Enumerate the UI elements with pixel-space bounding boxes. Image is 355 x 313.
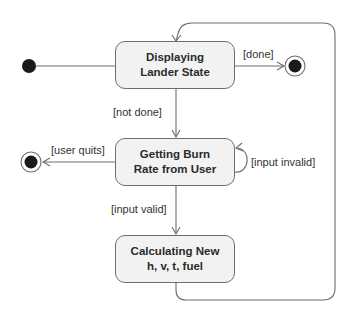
transition-input-invalid [235,148,247,172]
guard-input-valid: [input valid] [111,203,167,215]
guard-user-quits: [user quits] [51,144,105,156]
state-label-line2: Rate from User [134,162,216,177]
guard-done: [done] [243,48,274,60]
state-label-line1: Displaying [146,50,204,65]
guard-input-invalid: [input invalid] [251,156,315,168]
state-label-line2: h, v, t, fuel [147,259,203,274]
state-calculating-new: Calculating New h, v, t, fuel [115,235,235,283]
state-getting-burn-rate: Getting Burn Rate from User [115,138,235,186]
state-label-line1: Calculating New [131,244,220,259]
state-displaying-lander-state: Displaying Lander State [115,41,235,89]
state-label-line2: Lander State [140,65,210,80]
guard-not-done: [not done] [113,106,162,118]
initial-state [22,59,36,73]
final-state-done-core [289,60,302,73]
state-label-line1: Getting Burn [140,147,210,162]
final-state-quit-core [25,156,38,169]
